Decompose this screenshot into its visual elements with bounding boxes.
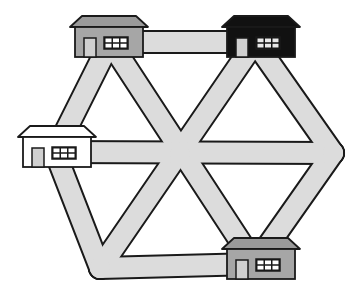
window-pane xyxy=(265,44,271,48)
road-intersection xyxy=(170,145,190,165)
road xyxy=(55,152,333,153)
road xyxy=(255,42,333,153)
window-pane xyxy=(265,266,271,270)
window-pane xyxy=(69,149,75,153)
door xyxy=(236,38,248,57)
window-pane xyxy=(121,39,127,43)
road xyxy=(55,152,100,268)
roof xyxy=(18,126,96,137)
window-pane xyxy=(69,154,75,158)
diagram-canvas xyxy=(0,0,353,291)
window-pane xyxy=(54,149,60,153)
window-pane xyxy=(258,44,264,48)
roof xyxy=(222,238,300,249)
roof xyxy=(70,16,148,27)
window-pane xyxy=(113,44,119,48)
house-bottom-right-icon xyxy=(222,238,300,279)
door xyxy=(236,260,248,279)
roof xyxy=(222,16,300,27)
window-pane xyxy=(258,39,264,43)
window-pane xyxy=(273,266,279,270)
window-pane xyxy=(258,266,264,270)
window-pane xyxy=(273,39,279,43)
road-intersection xyxy=(90,258,110,278)
door xyxy=(32,148,44,167)
road-network-diagram xyxy=(0,0,353,291)
window-pane xyxy=(273,44,279,48)
window-pane xyxy=(273,261,279,265)
house-top-right-icon xyxy=(222,16,300,57)
window-pane xyxy=(61,149,67,153)
house-top-left-icon xyxy=(70,16,148,57)
window-pane xyxy=(54,154,60,158)
window-pane xyxy=(106,44,112,48)
window-pane xyxy=(121,44,127,48)
house-left-icon xyxy=(18,126,96,167)
window-pane xyxy=(113,39,119,43)
window-pane xyxy=(265,261,271,265)
window-pane xyxy=(106,39,112,43)
door xyxy=(84,38,96,57)
road-intersection xyxy=(323,143,343,163)
window-pane xyxy=(265,39,271,43)
window-pane xyxy=(258,261,264,265)
window-pane xyxy=(61,154,67,158)
